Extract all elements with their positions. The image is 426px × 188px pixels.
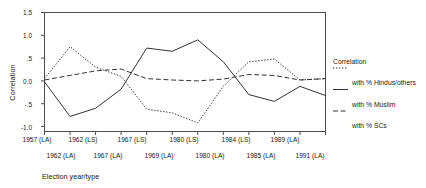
- x-tick-label-lower-6: 1991 (LA): [278, 152, 342, 159]
- x-tick-marks: [45, 132, 326, 136]
- legend-label-muslim: with % Muslim: [352, 101, 395, 108]
- legend-title: Correlation: [333, 58, 366, 65]
- x-axis-title: Election year/type: [42, 172, 99, 181]
- series-line-scs: [45, 69, 326, 81]
- y-tick-marks: [41, 13, 45, 127]
- legend-label-scs: with % SCs: [352, 122, 387, 129]
- plot-canvas: [0, 0, 426, 188]
- x-tick-label-upper-6: 1989 (LA): [253, 136, 317, 143]
- legend-label-hindus-others: with % Hindus/others: [352, 79, 416, 86]
- correlation-line-chart: Correlation 1.5 1.0 .5 0.0 -.5 -1.0 1957…: [0, 0, 426, 188]
- series-line-muslim: [45, 40, 326, 117]
